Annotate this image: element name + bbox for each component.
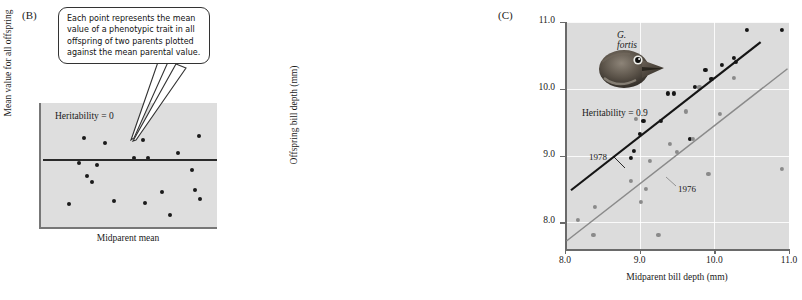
data-point <box>160 190 164 194</box>
series-label-1976: 1976 <box>678 184 696 194</box>
data-point <box>644 187 648 191</box>
gridline-horizontal <box>565 222 789 223</box>
data-point <box>718 112 722 116</box>
data-point <box>734 60 738 64</box>
panel-b-x-axis-label: Midparent mean <box>39 233 217 243</box>
data-point <box>591 233 595 237</box>
panel-c-heritability-label: Heritability = 0.9 <box>582 108 648 118</box>
data-point <box>638 132 642 136</box>
data-point <box>684 109 688 113</box>
data-point <box>143 201 147 205</box>
panel-c: (C) G. fortis Heritability = 0.9 1978 19… <box>262 0 541 300</box>
panel-b-y-axis-label: Mean value for all offspring <box>3 0 13 163</box>
data-point <box>95 163 99 167</box>
panel-c-x-axis <box>565 249 789 251</box>
data-point <box>675 150 679 154</box>
data-point <box>632 149 636 153</box>
data-point <box>658 119 662 123</box>
data-point <box>193 188 197 192</box>
data-point <box>703 68 707 72</box>
data-point <box>656 233 660 237</box>
panel-c-y-axis <box>565 22 567 249</box>
data-point <box>691 137 695 141</box>
data-point <box>745 28 749 32</box>
data-point <box>720 63 724 67</box>
data-point <box>82 136 86 140</box>
y-axis-tick-label: 9.0 <box>521 149 555 159</box>
gridline-vertical <box>714 22 715 249</box>
y-axis-tick <box>560 222 565 223</box>
data-point <box>176 151 180 155</box>
data-point <box>190 168 194 172</box>
data-point <box>709 77 713 81</box>
data-point <box>667 141 671 145</box>
data-point <box>112 199 116 203</box>
data-point <box>168 213 172 217</box>
panel-c-y-axis-label: Offspring bill depth (mm) <box>289 5 299 225</box>
data-point <box>706 172 710 176</box>
panel-b-regression-line <box>43 159 217 161</box>
data-point <box>648 159 652 163</box>
panel-c-label: (C) <box>498 9 513 21</box>
data-point <box>666 91 670 95</box>
y-axis-tick-label: 11.0 <box>521 15 555 25</box>
panel-b-label: (B) <box>22 9 37 21</box>
data-point <box>67 202 71 206</box>
x-axis-tick-label: 8.0 <box>545 255 585 265</box>
y-axis-tick <box>560 89 565 90</box>
y-axis-tick <box>560 22 565 23</box>
x-axis-tick-label: 10.0 <box>694 255 734 265</box>
data-point <box>593 205 597 209</box>
data-point <box>672 91 676 95</box>
data-point <box>641 119 645 123</box>
x-axis-tick <box>789 249 790 254</box>
panel-b: (B) Heritability = 0 Mean value for all … <box>0 0 262 300</box>
panel-c-x-axis-label: Midparent bill depth (mm) <box>565 272 789 282</box>
x-axis-tick <box>640 249 641 254</box>
data-point <box>629 155 633 159</box>
data-point <box>639 200 643 204</box>
data-point <box>77 161 81 165</box>
panel-b-plot-area: Heritability = 0 <box>39 103 217 229</box>
data-point <box>141 138 145 142</box>
x-axis-tick <box>714 249 715 254</box>
data-point <box>198 197 202 201</box>
data-point <box>779 167 783 171</box>
data-point <box>90 180 94 184</box>
data-point <box>779 28 783 32</box>
data-point <box>629 179 633 183</box>
y-axis-tick-label: 8.0 <box>521 215 555 225</box>
gridline-horizontal <box>565 22 789 23</box>
panel-b-callout: Each point represents the mean value of … <box>58 7 210 64</box>
y-axis-tick <box>560 156 565 157</box>
data-point <box>732 76 736 80</box>
x-axis-tick-label: 11.0 <box>769 255 802 265</box>
x-axis-tick <box>565 249 566 254</box>
data-point <box>103 141 107 145</box>
finch-illustration <box>594 40 666 92</box>
gridline-vertical <box>789 22 790 249</box>
series-label-1978: 1978 <box>589 152 607 162</box>
x-axis-tick-label: 9.0 <box>620 255 660 265</box>
panel-b-scatter-layer <box>41 103 217 227</box>
data-point <box>197 134 201 138</box>
y-axis-tick-label: 10.0 <box>521 82 555 92</box>
data-point <box>85 174 89 178</box>
